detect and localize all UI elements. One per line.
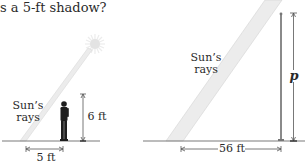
left-rays-label: Sun’s rays [8, 100, 48, 124]
left-figure [2, 34, 105, 152]
right-figure [143, 0, 305, 152]
right-height-variable: p [287, 70, 301, 82]
person-icon [60, 101, 69, 141]
right-shadow-label: 56 ft [218, 143, 246, 155]
rays-label-line2: rays [8, 112, 48, 124]
shadow-diagrams [0, 0, 305, 164]
left-shadow-label: 5 ft [33, 152, 59, 164]
sun-ray-band [20, 48, 92, 141]
pole [278, 13, 284, 141]
rays-label-line2: rays [186, 64, 226, 76]
left-height-label: 6 ft [86, 111, 108, 123]
right-rays-label: Sun’s rays [186, 52, 226, 76]
